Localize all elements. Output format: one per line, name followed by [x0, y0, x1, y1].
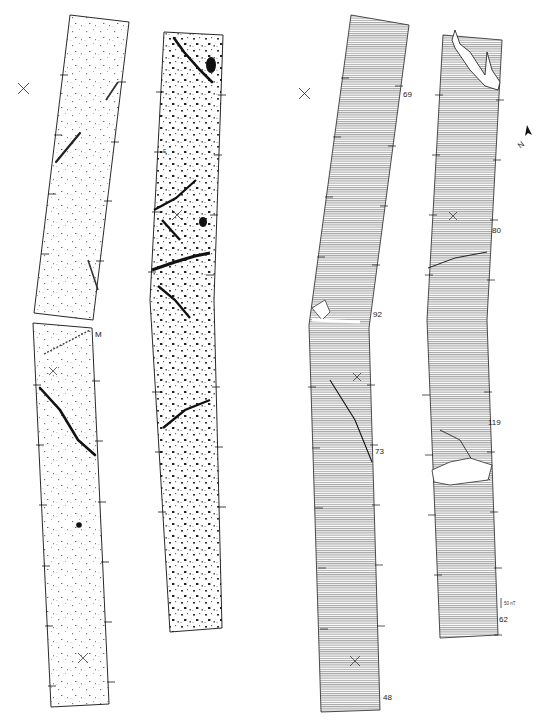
north-arrow-icon: [525, 125, 532, 136]
scale-bar: 50 nT: [501, 598, 516, 608]
trace-label-48: 48: [383, 693, 392, 702]
scale-bar-label: 50 nT: [504, 601, 516, 606]
trace-label-119: 119: [488, 418, 501, 427]
trace-label-73: 73: [375, 447, 384, 456]
trace-label-69: 69: [403, 90, 412, 99]
label-M: M: [95, 330, 102, 339]
survey-figure: M E: [0, 0, 546, 727]
greyscale-strip-1-lower: M: [33, 323, 115, 707]
trace-label-80: 80: [492, 226, 501, 235]
greyscale-strip-2: E: [148, 32, 226, 632]
trace-label-92: 92: [373, 310, 382, 319]
site-cross-right-icon: [299, 88, 310, 99]
site-cross-left-icon: [18, 83, 29, 94]
trace-label-62: 62: [499, 615, 508, 624]
greyscale-strip-1-upper: [34, 15, 129, 320]
trace-strip-2: 80 119 62: [422, 30, 508, 638]
trace-strip-1: 69 92 73 48: [308, 15, 412, 712]
north-label: N: [516, 139, 526, 150]
north-arrow: N: [516, 125, 532, 150]
